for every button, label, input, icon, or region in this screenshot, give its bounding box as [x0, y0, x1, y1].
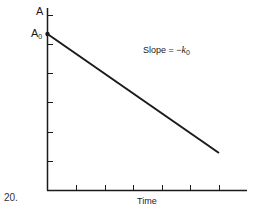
y-intercept-label: A0 — [31, 28, 42, 42]
figure-number: 20. — [4, 192, 18, 203]
x-ticks — [77, 185, 220, 191]
slope-annotation: Slope = −k0 — [143, 44, 190, 56]
y-axis-label: A — [36, 6, 43, 16]
decay-line — [48, 34, 220, 153]
y-intercept-sub: 0 — [38, 33, 42, 40]
slope-k-sub: 0 — [186, 49, 190, 56]
x-axis-label: Time — [137, 196, 157, 206]
slope-prefix: Slope = − — [143, 45, 182, 55]
intercept-point — [45, 32, 49, 36]
